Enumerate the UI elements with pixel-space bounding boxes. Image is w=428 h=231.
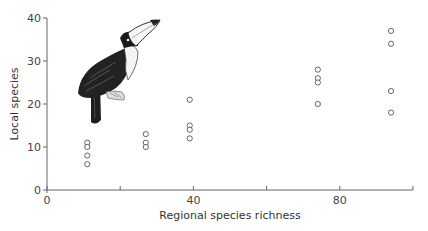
data-point xyxy=(315,80,320,85)
data-point xyxy=(143,132,148,137)
data-point xyxy=(388,89,393,94)
x-tick-label: 80 xyxy=(333,194,347,207)
x-axis-title: Regional species richness xyxy=(159,209,301,222)
data-point xyxy=(85,162,90,167)
axes: 04080010203040 xyxy=(27,12,413,207)
data-point xyxy=(187,136,192,141)
scatter-chart: 04080010203040 Regional species richness… xyxy=(0,0,428,231)
data-point xyxy=(388,41,393,46)
data-point xyxy=(187,97,192,102)
data-point xyxy=(85,144,90,149)
y-tick-label: 10 xyxy=(27,141,41,154)
data-point xyxy=(315,67,320,72)
y-tick-label: 40 xyxy=(27,12,41,25)
y-tick-label: 20 xyxy=(27,98,41,111)
data-point xyxy=(315,101,320,106)
y-axis-title: Local species xyxy=(8,67,21,140)
data-point xyxy=(388,110,393,115)
y-tick-label: 30 xyxy=(27,55,41,68)
toucan-illustration xyxy=(78,20,160,124)
x-tick-label: 40 xyxy=(186,194,200,207)
data-point xyxy=(388,28,393,33)
data-point xyxy=(85,153,90,158)
y-tick-label: 0 xyxy=(34,184,41,197)
x-tick-label: 0 xyxy=(44,194,51,207)
data-point xyxy=(187,127,192,132)
data-point xyxy=(143,144,148,149)
